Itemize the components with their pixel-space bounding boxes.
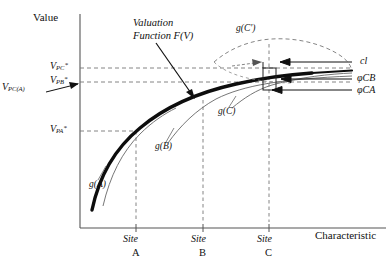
x-tick-site-b-word: Site [191,234,206,244]
annotation-title-line2: Function F(V) [133,31,193,42]
arrow-phica-head [272,87,282,94]
vpca-arrow-head [69,82,79,89]
vpc-sup: * [64,61,68,69]
vpb-sup: * [64,75,68,83]
y-tick-label-vpa: VPA* [50,124,67,135]
curve-label-g-b: g(B) [155,142,172,152]
diagram-canvas: Value Characteristic Valuation Function … [0,0,392,266]
valuation-annotation-arrow [156,43,195,99]
y-tick-label-vpc: VPC* [50,61,68,72]
y-tick-label-vpb: VPB* [50,75,68,86]
vertical-site-lines [136,44,269,222]
right-label-phicb: φCB [357,73,375,83]
vpa-sup: * [63,124,67,132]
axes-group [80,14,386,228]
valuation-arrow-line [156,43,193,96]
axis-point-label-vpca: VPC(A) [2,82,25,93]
x-axis-label: Characteristic [315,230,376,241]
x-tick-site-c-word: Site [257,234,272,244]
g-c-prime-arrow [232,59,262,66]
valuation-function-tail [312,71,352,74]
right-label-phica: φCA [357,85,375,95]
y-axis-label: Value [33,12,58,23]
vpb-sub: PB [56,78,64,85]
g-c-prime-curve [214,39,351,68]
g-b-curve [168,76,352,143]
curve-label-g-c: g(C) [218,107,235,117]
x-tick-site-b-letter: B [199,248,206,259]
x-tick-site-a-word: Site [123,234,138,244]
valuation-function-curve [92,73,312,210]
g-c-prime-arrow-head [252,59,262,66]
arrow-cl-head [280,59,290,66]
right-label-cl: cl [360,56,367,66]
curve-label-g-c-prime: g(C') [236,24,255,34]
vpca-sub: PC(A) [8,85,25,92]
annotation-title-line1: Valuation [133,18,173,29]
x-tick-site-a-letter: A [132,248,140,259]
curve-label-g-a: g(A) [89,180,106,190]
x-tick-site-c-letter: C [265,248,272,259]
